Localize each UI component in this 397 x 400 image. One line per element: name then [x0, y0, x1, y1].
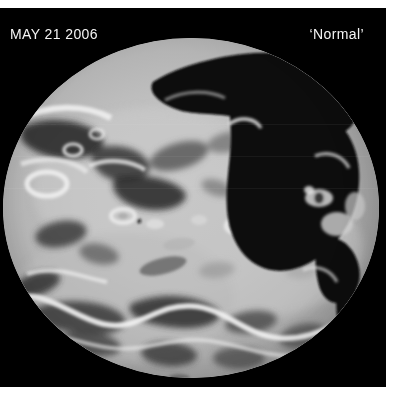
page-margin-top — [0, 0, 397, 8]
page-margin-right — [386, 0, 397, 400]
satellite-image-panel: MAY 21 2006 ‘Normal’ — [0, 8, 386, 387]
page-margin-bottom — [0, 387, 397, 400]
enso-state-label: ‘Normal’ — [309, 26, 364, 42]
date-label: MAY 21 2006 — [10, 26, 98, 42]
globe-clip — [3, 38, 379, 378]
sea-surface-height-anomaly-layer — [3, 38, 379, 378]
figure-container: MAY 21 2006 ‘Normal’ — [0, 0, 397, 400]
pacific-ocean-globe — [3, 38, 379, 378]
